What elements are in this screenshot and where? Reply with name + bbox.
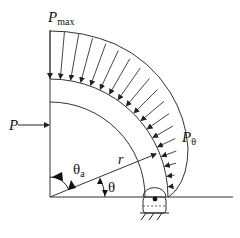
pressure-arrow — [162, 151, 176, 156]
load-envelope — [50, 31, 188, 197]
p-side-label: P — [8, 117, 18, 133]
arch-diagram: Pmax P Pθ r θa θ — [0, 0, 240, 238]
theta-label: θ — [108, 179, 115, 195]
pressure-arrow — [60, 32, 64, 79]
theta-a-arrowhead-bottom — [68, 180, 76, 190]
p-max-label: Pmax — [47, 9, 74, 27]
pressure-arrow — [153, 126, 173, 138]
p-theta-label: Pθ — [181, 129, 196, 147]
pressure-arrow — [158, 139, 175, 147]
pressure-arrow — [147, 114, 169, 129]
theta-a-label: θa — [73, 161, 85, 179]
pressure-arrow — [71, 34, 79, 80]
pressure-arrow — [110, 59, 130, 94]
pin-support — [140, 188, 169, 220]
pressure-arrow — [165, 163, 176, 166]
theta-arrowhead-top — [97, 178, 103, 184]
pressure-arrow — [141, 101, 164, 120]
radius-label: r — [118, 152, 124, 167]
pressure-arrow — [91, 44, 106, 85]
pressure-arrows — [50, 31, 176, 187]
theta-a-arrowhead-top — [52, 172, 63, 181]
pressure-arrow — [81, 38, 93, 82]
pressure-arrow — [167, 175, 174, 176]
